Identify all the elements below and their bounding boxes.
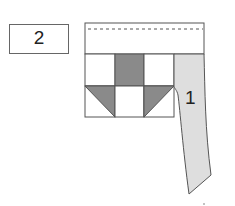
quilt-diagram: 1 (0, 0, 235, 206)
stray-mark (203, 203, 205, 205)
strip-number: 1 (185, 87, 196, 108)
top-border-strip (85, 23, 204, 54)
block-cell-r1c1 (85, 54, 115, 86)
block-cell-r2c2 (115, 86, 144, 117)
block-cell-r1c2 (115, 54, 144, 86)
side-strip (174, 54, 211, 194)
block-cell-r1c3 (144, 54, 174, 86)
